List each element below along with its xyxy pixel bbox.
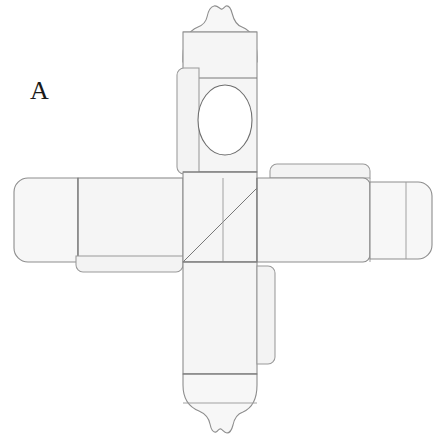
oval-window-cutout [198, 85, 252, 155]
upper-left-glue-tab [177, 68, 199, 174]
left-lower-glue-tab [76, 256, 183, 272]
right-arm-panel [257, 178, 370, 262]
bottom-decorative-flap [183, 374, 257, 433]
figure-container: .panel { fill:#f5f5f5; stroke:#8d8d8d; s… [0, 0, 445, 436]
bottom-right-glue-tab [257, 266, 275, 364]
center-panel [183, 172, 267, 262]
left-end-flap [14, 178, 78, 262]
right-upper-glue-tab [270, 164, 370, 178]
bottom-panel [183, 262, 257, 374]
carton-blank-drawing: .panel { fill:#f5f5f5; stroke:#8d8d8d; s… [0, 0, 445, 436]
left-arm-panel [78, 178, 183, 262]
figure-label: A [30, 78, 49, 104]
right-end-flap [370, 182, 432, 259]
